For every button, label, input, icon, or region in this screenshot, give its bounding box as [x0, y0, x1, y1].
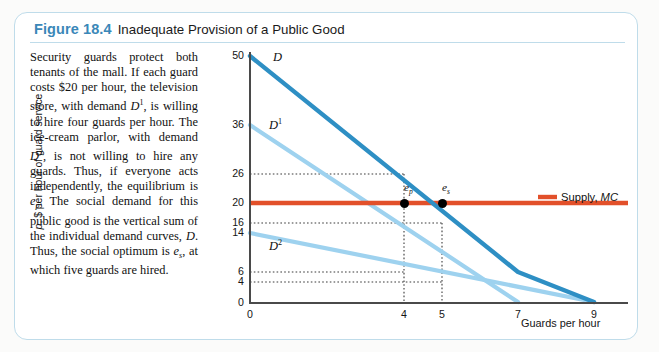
y-tick-26: 26 — [218, 167, 244, 179]
point-label-ep: ep — [404, 181, 413, 196]
supply-curve-label: Supply, MC — [561, 191, 618, 203]
y-tick-4: 4 — [218, 275, 244, 287]
x-axis-title: Guards per hour — [521, 317, 600, 329]
point-ep-marker — [400, 199, 409, 208]
curve-d-social — [250, 56, 594, 302]
x-tick-0: 0 — [240, 308, 260, 320]
curve-label-d: D — [273, 50, 282, 65]
chart-plot-area: 50 36 26 20 16 14 6 4 0 0 4 5 7 9 p, $ p… — [0, 0, 659, 352]
y-axis-title: p, $ per hour of guard service — [33, 77, 44, 247]
point-label-es: es — [442, 181, 450, 196]
curve-label-d1: D1 — [269, 117, 282, 133]
y-tick-36: 36 — [218, 118, 244, 130]
chart-svg — [0, 0, 659, 352]
x-axis-line — [249, 302, 628, 304]
y-tick-0: 0 — [218, 296, 244, 308]
y-tick-14: 14 — [218, 226, 244, 238]
x-tick-4: 4 — [394, 308, 414, 320]
curve-label-d2: D2 — [269, 238, 282, 254]
y-tick-20: 20 — [218, 196, 244, 208]
curve-d2 — [250, 233, 594, 302]
y-tick-50: 50 — [218, 49, 244, 61]
figure-root: Figure 18.4Inadequate Provision of a Pub… — [0, 0, 659, 352]
x-tick-5: 5 — [432, 308, 452, 320]
point-es-marker — [438, 199, 447, 208]
y-axis-line — [249, 52, 251, 304]
curve-d1 — [250, 125, 518, 302]
